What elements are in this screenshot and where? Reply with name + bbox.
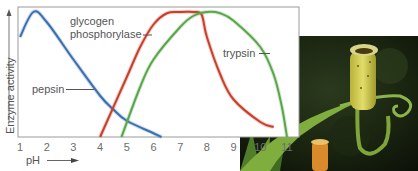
- x-tick-label: 10: [254, 141, 266, 153]
- y-axis-arrowhead-icon: [7, 9, 12, 16]
- x-tick-label: 9: [231, 141, 237, 153]
- x-tick-label: 3: [70, 141, 76, 153]
- x-tick-label: 4: [97, 141, 103, 153]
- pepsin-label: pepsin: [32, 83, 64, 95]
- x-axis-arrowhead-icon: [71, 158, 79, 163]
- enzyme-activity-chart: Enzyme activity 1234567891011 pH glycoge…: [0, 0, 418, 171]
- glycogen-label-line1: glycogen: [70, 15, 114, 27]
- x-axis-ticks: 1234567891011: [17, 141, 293, 153]
- x-tick-label: 7: [177, 141, 183, 153]
- x-tick-label: 11: [281, 141, 292, 153]
- trypsin-label: trypsin: [223, 47, 255, 59]
- y-axis-label: Enzyme activity: [4, 57, 16, 134]
- x-tick-label: 1: [17, 141, 23, 153]
- x-tick-label: 8: [204, 141, 210, 153]
- x-tick-label: 2: [44, 141, 50, 153]
- glycogen-label-line2: phosphorylase: [70, 28, 142, 40]
- x-tick-label: 5: [124, 141, 130, 153]
- x-axis-label: pH: [26, 154, 40, 166]
- x-tick-label: 6: [150, 141, 156, 153]
